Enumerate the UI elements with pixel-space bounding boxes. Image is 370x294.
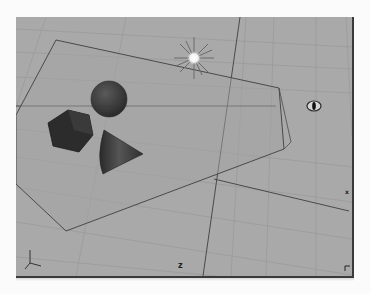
sphere[interactable] bbox=[91, 81, 127, 117]
viewport-shadow bbox=[16, 278, 354, 281]
camera-target-icon[interactable] bbox=[307, 101, 321, 111]
scene-canvas[interactable] bbox=[16, 17, 352, 276]
3d-viewport[interactable]: z x bbox=[16, 17, 354, 278]
z-axis-label: z bbox=[178, 261, 183, 270]
corner-glyph-icon bbox=[345, 266, 350, 271]
x-axis-label: x bbox=[345, 188, 349, 195]
